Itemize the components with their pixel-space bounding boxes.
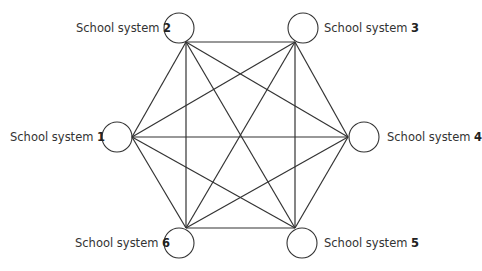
node-circle-1: [102, 122, 132, 152]
label-school-system-5: School system 5: [324, 236, 419, 250]
label-text: School system: [324, 21, 407, 35]
label-text: School system: [76, 21, 159, 35]
edge-1-2: [132, 42, 186, 137]
label-school-system-1: School system 1: [10, 130, 105, 144]
label-number: 5: [411, 236, 419, 250]
node-circle-5: [287, 228, 317, 258]
edge-4-6: [186, 137, 348, 228]
label-number: 6: [162, 236, 170, 250]
label-text: School system: [324, 236, 407, 250]
label-text: School system: [387, 130, 470, 144]
label-school-system-6: School system 6: [75, 236, 170, 250]
node-circle-4: [349, 122, 379, 152]
label-text: School system: [10, 130, 93, 144]
edge-3-4: [295, 42, 348, 137]
node-circle-3: [288, 13, 318, 43]
label-school-system-4: School system 4: [387, 130, 482, 144]
label-school-system-2: School system 2: [76, 21, 171, 35]
label-text: School system: [75, 236, 158, 250]
label-number: 2: [163, 21, 171, 35]
edge-4-5: [295, 137, 348, 228]
label-school-system-3: School system 3: [324, 21, 419, 35]
label-number: 4: [474, 130, 482, 144]
edge-1-6: [132, 137, 186, 228]
label-number: 3: [411, 21, 419, 35]
connection-lines: [132, 42, 348, 228]
edge-1-5: [132, 137, 295, 228]
label-number: 1: [97, 130, 105, 144]
